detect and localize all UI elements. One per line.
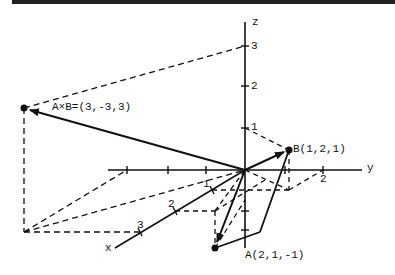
x-tick-2: 2 (168, 198, 175, 210)
top-border (12, 0, 395, 4)
point-a (212, 245, 219, 252)
b-label: B(1,2,1) (293, 143, 346, 155)
x-axis (115, 170, 245, 248)
z-axis-label: z (252, 16, 259, 28)
x-tick-1: 1 (203, 178, 210, 190)
axis-ticks (127, 46, 323, 236)
y-tick-2: 2 (320, 173, 327, 185)
a-label: A(2,1,-1) (245, 249, 304, 261)
z-tick-3: 3 (251, 40, 258, 52)
diagram-canvas (0, 0, 395, 275)
vector-b (245, 152, 284, 170)
axes (108, 22, 362, 248)
z-tick-1: 1 (251, 121, 258, 133)
axb-label: A×B=(3,-3,3) (52, 101, 131, 113)
cross-product-diagram: z 3 2 1 y 2 1 2 3 x A×B=(3,-3,3) B(1,2,1… (0, 0, 395, 275)
point-b (286, 147, 293, 154)
x-axis-label: x (105, 242, 112, 254)
vector-axb (30, 110, 245, 170)
y-axis-label: y (367, 162, 374, 174)
z-tick-2: 2 (251, 80, 258, 92)
point-axb (21, 105, 28, 112)
x-tick-3: 3 (137, 219, 144, 231)
